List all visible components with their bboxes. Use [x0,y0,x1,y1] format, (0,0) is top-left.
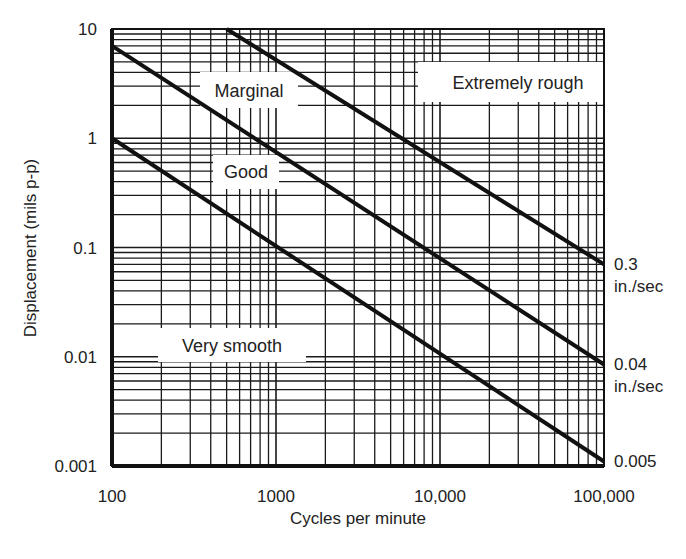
series-label-value: 0.005 [614,452,657,471]
zone-label: Marginal [214,81,283,101]
y-tick-label: 0.1 [73,239,97,258]
y-tick-label: 0.01 [64,348,97,367]
zone-label: Good [224,162,268,182]
x-tick-label: 1000 [257,487,295,506]
x-axis-title: Cycles per minute [290,509,426,528]
y-tick-label: 10 [78,20,97,39]
y-axis-title: Displacement (mils p-p) [21,159,40,338]
zone-label: Very smooth [182,336,282,356]
x-tick-label: 100,000 [573,487,634,506]
y-tick-label: 0.001 [54,457,97,476]
x-tick-labels: 100100010,000100,000 [98,487,635,506]
series-label-unit: in./sec [614,277,664,296]
zone-label: Extremely rough [452,73,583,93]
series-label-value: 0.3 [614,255,638,274]
y-tick-label: 1 [88,129,97,148]
velocity-line-2 [112,138,604,461]
x-tick-label: 10,000 [414,487,466,506]
series-label-unit: in./sec [614,377,664,396]
x-tick-label: 100 [98,487,126,506]
y-tick-labels: 1010.10.010.001 [54,20,97,476]
series-labels: 0.3in./sec0.04in./sec0.005 [614,255,664,471]
vibration-severity-chart: 100100010,000100,000 1010.10.010.001 0.3… [0,0,686,559]
series-label-value: 0.04 [614,355,647,374]
